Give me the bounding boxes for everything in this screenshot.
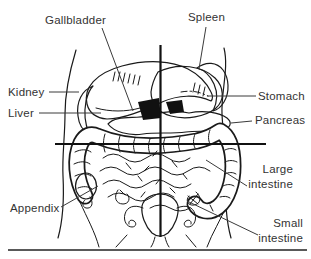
liver-hatching [113,72,205,96]
kidney-label: Kidney [8,86,44,98]
organ-labels: Gallbladder Spleen Kidney Liver Stomach … [8,11,305,244]
gallbladder-leader-line [102,28,133,111]
kidney-shape [78,86,93,133]
pancreas-leader-line [231,121,252,123]
liver-lobe-line [96,108,140,111]
large-intestine-label-line2: intestine [248,178,293,190]
stomach-label: Stomach [258,90,305,102]
abdominal-organs-diagram: Gallbladder Spleen Kidney Liver Stomach … [0,0,311,259]
liver-label: Liver [8,107,34,119]
pancreas-label: Pancreas [255,114,305,126]
left-uterine-tube [124,206,143,227]
upper-organs [78,62,231,135]
appendix-label: Appendix [10,202,60,214]
small-intestine-label-line1: Small [273,217,303,229]
small-intestine-label-line2: intestine [258,232,303,244]
urethra-lines [151,237,169,247]
spleen-label: Spleen [188,11,225,23]
left-groin-line [80,202,99,247]
right-thigh-crease [186,235,196,247]
small-intestine-creases [120,151,187,197]
gallbladder-label: Gallbladder [45,14,106,26]
large-intestine-group [74,130,237,211]
large-intestine-label-line1: Large [263,163,293,175]
spleen-leader-line [199,27,206,69]
left-thigh-crease [116,235,127,247]
diagram-artwork: Gallbladder Spleen Kidney Liver Stomach … [0,0,311,259]
